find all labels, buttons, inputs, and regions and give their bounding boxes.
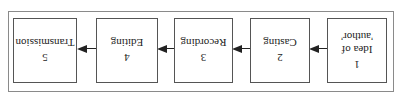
arrow-icon bbox=[77, 45, 96, 53]
arrow-icon bbox=[157, 45, 174, 53]
arrow-icon bbox=[309, 45, 327, 53]
step-label-line: Idea of bbox=[342, 43, 373, 56]
flow-diagram: 1 Idea of 'author' 2 Casting 3 Recording… bbox=[0, 0, 401, 97]
step-label: Transmission bbox=[16, 37, 75, 50]
step-box-2: 2 Casting bbox=[250, 18, 310, 83]
step-label: Casting bbox=[263, 37, 297, 50]
step-label: Editing bbox=[111, 37, 143, 50]
step-box-3: 3 Recording bbox=[174, 18, 233, 83]
step-number: 5 bbox=[42, 52, 48, 65]
step-number: 4 bbox=[124, 52, 130, 65]
step-box-5: 5 Transmission bbox=[13, 18, 77, 83]
step-number: 2 bbox=[277, 52, 283, 65]
step-label: Recording bbox=[181, 37, 227, 50]
step-box-4: 4 Editing bbox=[96, 18, 158, 83]
step-box-1: 1 Idea of 'author' bbox=[327, 18, 387, 83]
step-number: 3 bbox=[201, 52, 207, 65]
step-label-line: 'author' bbox=[341, 30, 373, 43]
step-number: 1 bbox=[354, 58, 360, 71]
arrow-icon bbox=[232, 45, 250, 53]
